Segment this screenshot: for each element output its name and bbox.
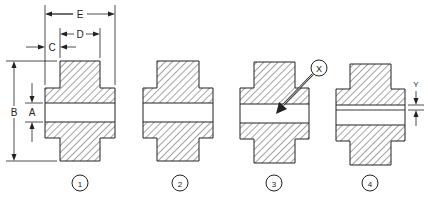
callout-x-label: X <box>316 64 322 74</box>
part-3-number: 3 <box>272 180 277 189</box>
part-2-number: 2 <box>178 180 183 189</box>
part-1-lower-section <box>45 122 115 161</box>
part-4-lower-section <box>336 125 405 165</box>
dimension-b-label: B <box>11 107 18 118</box>
dimension-c-label: C <box>48 42 55 53</box>
part-3-upper-section <box>240 62 309 104</box>
part-2: 2 <box>143 61 213 191</box>
dimension-d-label: D <box>76 29 83 40</box>
part-1-upper-section <box>45 61 115 103</box>
part-4-number: 4 <box>368 180 373 189</box>
part-3: X 3 <box>240 60 327 191</box>
part-1-number: 1 <box>78 180 83 189</box>
part-2-lower-section <box>143 122 213 161</box>
part-1: E D C B A 1 <box>6 5 115 191</box>
part-4: Y 4 <box>336 64 424 191</box>
part-4-upper-section <box>336 64 405 105</box>
dimension-e-label: E <box>77 9 84 20</box>
diagram-canvas: E D C B A 1 2 <box>0 0 428 201</box>
part-3-lower-section <box>240 123 309 163</box>
part-2-upper-section <box>143 61 213 103</box>
dimension-y-label: Y <box>413 80 419 89</box>
dimension-a-label: A <box>29 107 36 118</box>
